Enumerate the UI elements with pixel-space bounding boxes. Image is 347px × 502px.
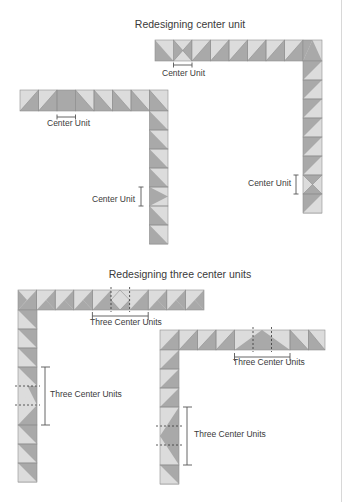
hst-column: [303, 61, 322, 214]
three-center-units-dimension-horizontal: [235, 353, 291, 361]
top-right-border: [155, 40, 322, 214]
quilt-border-diagrams: .L { fill:#dcdcdc; } .D { fill:#a9a9a9; …: [0, 0, 347, 502]
bottom-right-border: [156, 327, 325, 485]
three-center-units-dimension-vertical: [41, 367, 50, 425]
top-left-border: [20, 90, 168, 245]
center-unit-cell: [57, 90, 76, 111]
center-unit-dimension-horizontal: [174, 63, 193, 68]
hst-row: [192, 40, 303, 61]
center-unit-dimension-vertical: [294, 175, 299, 194]
corner-cell: [303, 40, 322, 61]
hst-cell: [155, 40, 174, 61]
center-unit-dimension-horizontal: [57, 115, 76, 120]
three-center-units-dimension-vertical: [183, 407, 192, 465]
center-unit-cell: [174, 40, 193, 61]
three-center-units-dimension-horizontal: [92, 312, 148, 320]
center-unit-dimension-vertical: [139, 187, 144, 206]
